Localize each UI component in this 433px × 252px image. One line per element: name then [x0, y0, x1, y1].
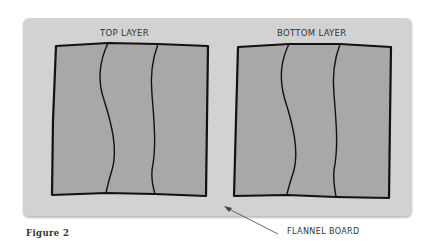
top-layer-panel: [52, 43, 208, 196]
figure-caption: Figure 2: [26, 228, 69, 238]
flannel-board-arrow: [224, 206, 278, 234]
flannel-board-label: FLANNEL BOARD: [287, 227, 360, 236]
bottom-layer-panel: [234, 44, 391, 198]
layer-diagram: [0, 0, 433, 252]
